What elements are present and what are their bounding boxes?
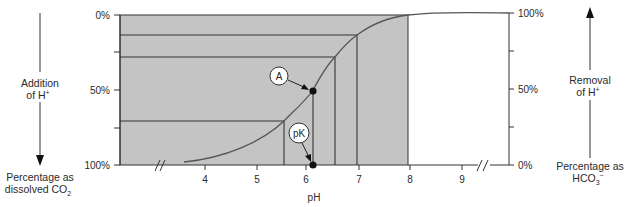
addition-label-line1: Addition	[21, 77, 59, 89]
point-pk-marker	[309, 161, 316, 168]
arrow-up-icon	[586, 7, 594, 18]
right-caption-line1: Percentage as	[556, 160, 624, 172]
right-tick-100: 100%	[518, 8, 544, 19]
left-tick-100: 100%	[84, 160, 110, 171]
point-a-marker	[309, 87, 316, 94]
addition-label-line2: of H+	[26, 89, 49, 101]
x-tick-6: 6	[303, 174, 309, 185]
x-axis-label: pH	[308, 192, 321, 203]
arrow-down-icon	[36, 155, 44, 166]
left-tick-50: 50%	[90, 85, 110, 96]
right-tick-0: 0%	[518, 160, 533, 171]
x-tick-7: 7	[356, 174, 362, 185]
right-caption-line2: HCO3−	[572, 172, 603, 186]
left-caption-line1: Percentage as	[6, 171, 74, 183]
left-caption-line2: dissolved CO2	[5, 183, 71, 197]
right-axis	[509, 13, 514, 165]
x-tick-4: 4	[202, 174, 208, 185]
left-tick-0: 0%	[96, 10, 111, 21]
removal-label-line2: of H+	[576, 86, 599, 98]
bicarbonate-titration-chart: 0% 50% 100% 100% 50% 0% 4 5 6 7 8 9 pH	[0, 0, 629, 207]
x-tick-8: 8	[407, 174, 413, 185]
shaded-region	[120, 15, 408, 165]
callout-pk-label: pK	[293, 128, 306, 139]
x-tick-9: 9	[459, 174, 465, 185]
x-tick-5: 5	[254, 174, 260, 185]
callout-a-label: A	[276, 71, 283, 82]
right-tick-50: 50%	[518, 84, 538, 95]
removal-label-line1: Removal	[569, 74, 610, 86]
left-axis	[114, 15, 120, 165]
